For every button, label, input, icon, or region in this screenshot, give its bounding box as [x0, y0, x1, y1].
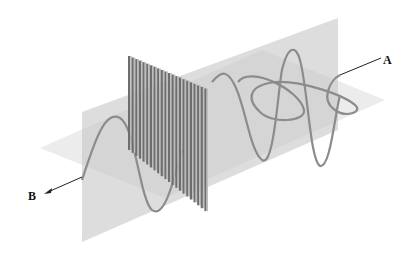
grating-gap — [199, 85, 201, 205]
grating-gap — [141, 61, 143, 159]
grating-gap — [148, 64, 150, 165]
grating-gap — [156, 67, 158, 171]
grating-gap — [170, 73, 172, 182]
grating-slat — [164, 72, 166, 180]
grating-slat — [146, 64, 148, 165]
grating-gap — [145, 62, 147, 162]
grating-gap — [196, 84, 198, 203]
polarization-diagram: A B — [0, 0, 414, 262]
grating-gap — [159, 68, 161, 173]
grating-slat — [132, 58, 134, 153]
grating-slat — [197, 85, 199, 205]
grating-gap — [130, 56, 132, 150]
grating-gap — [152, 65, 154, 167]
grating-slat — [175, 76, 177, 188]
label-a: A — [383, 53, 392, 67]
grating-slat — [183, 79, 185, 194]
grating-gap — [207, 89, 209, 212]
grating-slat — [161, 70, 163, 176]
grating-slat — [190, 82, 192, 199]
grating-gap — [163, 70, 165, 176]
grating-slat — [179, 78, 181, 191]
grating-gap — [192, 82, 194, 199]
grating-gap — [185, 79, 187, 194]
arrowhead-b-icon — [44, 188, 52, 194]
grating-slat — [150, 65, 152, 167]
grating-slat — [135, 59, 137, 156]
arrow-b — [48, 177, 82, 192]
grating-slat — [194, 84, 196, 203]
grating-gap — [203, 87, 205, 208]
grating-slat — [154, 67, 156, 171]
grating-slat — [157, 68, 159, 173]
grating-gap — [181, 78, 183, 191]
grating-slat — [172, 75, 174, 185]
grating-gap — [167, 72, 169, 180]
grating-slat — [204, 89, 206, 212]
grating-gap — [188, 81, 190, 197]
label-b: B — [28, 189, 36, 203]
grating-slat — [139, 61, 141, 159]
grating-gap — [138, 59, 140, 156]
grating-slat — [143, 62, 145, 162]
grating-gap — [174, 75, 176, 185]
grating-slat — [186, 81, 188, 197]
grating-gap — [178, 76, 180, 188]
grating-slat — [168, 73, 170, 182]
vertical-plane — [82, 18, 338, 242]
grating-gap — [134, 58, 136, 153]
grating-slat — [201, 87, 203, 208]
grating-slat — [128, 56, 130, 150]
pointer-a — [340, 58, 381, 75]
